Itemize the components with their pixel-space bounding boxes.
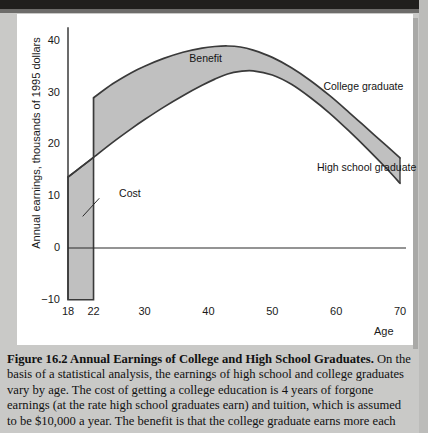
- page-top-shadow: [0, 9, 428, 13]
- page-right-edge: [419, 0, 428, 433]
- chart-annotation-cost: Cost: [119, 187, 141, 199]
- chart-annotation-college-graduate: College graduate: [323, 80, 403, 92]
- figure-caption: Figure 16.2 Annual Earnings of College a…: [7, 352, 412, 429]
- figure-caption-title: Figure 16.2 Annual Earnings of College a…: [7, 352, 374, 366]
- y-tick-label: −10: [34, 293, 60, 305]
- x-tick-label: 22: [82, 305, 106, 317]
- y-tick-label: 30: [34, 86, 60, 98]
- x-tick-label: 18: [56, 305, 80, 317]
- x-tick-label: 30: [133, 305, 157, 317]
- chart-annotation-high-school-graduate: High school graduate: [317, 161, 416, 173]
- figure-panel-shadow: [413, 18, 418, 349]
- x-tick-label: 70: [388, 305, 412, 317]
- y-tick-label: 0: [34, 241, 60, 253]
- y-tick-label: 10: [34, 189, 60, 201]
- x-tick-label: 40: [196, 305, 220, 317]
- page-top-edge: [0, 0, 428, 9]
- x-tick-label: 60: [324, 305, 348, 317]
- y-tick-label: 20: [34, 137, 60, 149]
- y-tick-label: 40: [34, 34, 60, 46]
- chart-annotation-benefit: Benefit: [189, 52, 222, 64]
- x-axis-title: Age: [374, 325, 394, 337]
- x-tick-label: 50: [260, 305, 284, 317]
- figure-panel: Annual earnings, thousands of 1995 dolla…: [17, 14, 413, 345]
